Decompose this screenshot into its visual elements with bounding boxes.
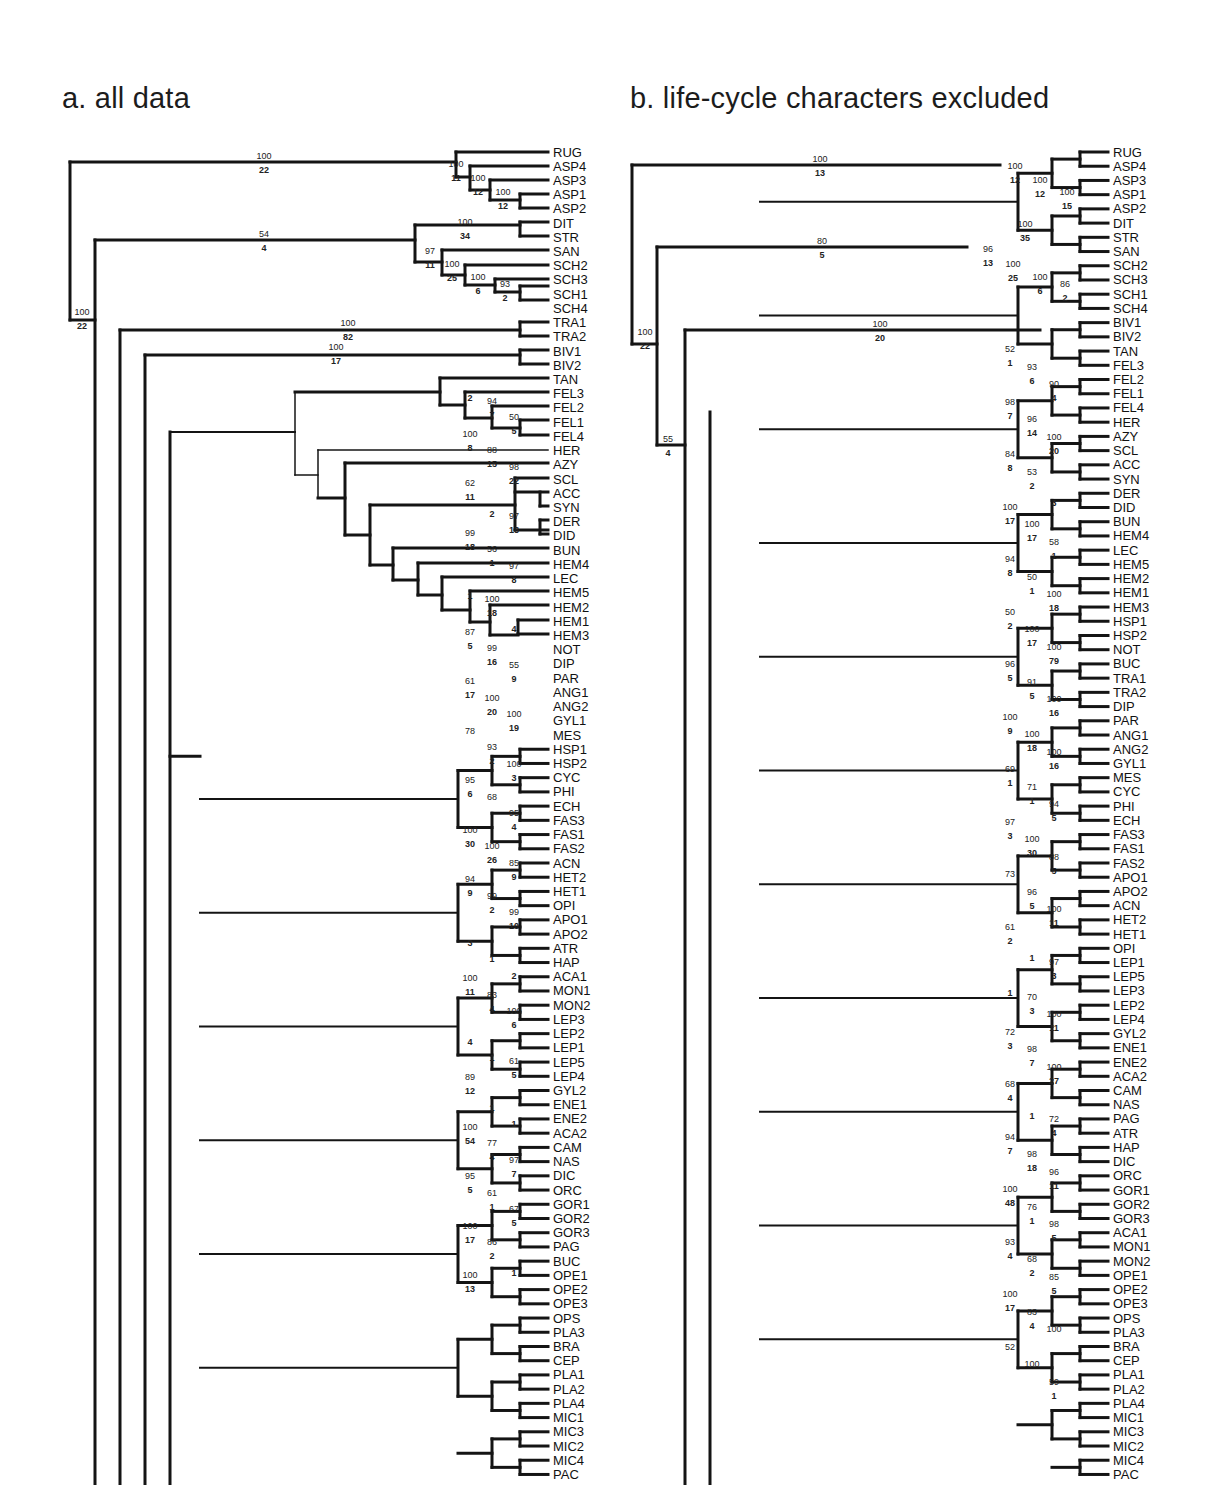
taxon-label: MON2 [1113,1254,1151,1269]
bootstrap-value: 96 [1027,414,1037,424]
decay-index: 1 [1029,586,1034,596]
taxon-label: SAN [1113,244,1140,259]
taxon-label: HSP2 [1113,628,1147,643]
decay-index: 25 [1008,273,1018,283]
bootstrap-value: 97 [1005,817,1015,827]
taxon-label: OPE3 [1113,1296,1148,1311]
decay-index: 5 [1029,901,1034,911]
bootstrap-value: 72 [1005,1027,1015,1037]
decay-index: 3 [1007,1041,1012,1051]
bootstrap-value: 93 [1027,362,1037,372]
taxon-label: APO2 [1113,884,1148,899]
bootstrap-value: 100 [812,154,827,164]
taxon-label: TAN [1113,344,1138,359]
bootstrap-value: 100 [1024,1359,1039,1369]
decay-index: 5 [1029,691,1034,701]
bootstrap-value: 100 [1046,904,1061,914]
bootstrap-value: 83 [1027,1307,1037,1317]
taxon-label: ANG2 [1113,742,1148,757]
taxon-label: ENE2 [1113,1055,1147,1070]
decay-index: 79 [1049,656,1059,666]
bootstrap-value: 91 [1027,677,1037,687]
taxon-label: LEP3 [1113,983,1145,998]
decay-index: 4 [1007,1093,1012,1103]
bootstrap-value: 76 [1027,1202,1037,1212]
decay-index: 1 [1029,796,1034,806]
taxon-label: HEM5 [1113,557,1149,572]
taxon-label: GYL1 [1113,756,1146,771]
taxon-label: ECH [1113,813,1140,828]
decay-index: 1 [1007,778,1012,788]
bootstrap-value: 52 [1005,1342,1015,1352]
decay-index: 35 [1020,233,1030,243]
bootstrap-value: 96 [1005,659,1015,669]
bootstrap-value: 100 [1024,729,1039,739]
decay-index: 18 [1027,1163,1037,1173]
bootstrap-value: 98 [1049,1219,1059,1229]
bootstrap-value: 100 [1007,161,1022,171]
decay-index: 11 [1049,1181,1059,1191]
taxon-label: SCH4 [1113,301,1148,316]
bootstrap-value: 100 [637,327,652,337]
taxon-label: ASP1 [1113,187,1146,202]
bootstrap-value: 68 [1027,1254,1037,1264]
bootstrap-value: 50 [1005,607,1015,617]
taxon-label: STR [1113,230,1139,245]
decay-index: 17 [1027,533,1037,543]
taxon-label: OPS [1113,1311,1141,1326]
decay-index: 8 [1007,568,1012,578]
decay-index: 17 [1005,516,1015,526]
taxon-label: MON1 [1113,1239,1151,1254]
bootstrap-value: 90 [1049,379,1059,389]
decay-index: 4 [665,448,670,458]
taxon-label: TRA2 [1113,685,1146,700]
decay-index: 30 [1027,848,1037,858]
taxon-label: DIC [1113,1154,1135,1169]
bootstrap-value: 96 [1049,1167,1059,1177]
taxon-label: ACC [1113,457,1140,472]
bootstrap-value: 70 [1027,992,1037,1002]
taxon-label: HEM2 [1113,571,1149,586]
taxon-label: APO1 [1113,870,1148,885]
decay-index: 2 [1062,293,1067,303]
taxon-label: PAR [1113,713,1139,728]
taxon-label: GOR3 [1113,1211,1150,1226]
taxon-label: BUC [1113,656,1140,671]
phylogenetic-tree-b: RUGASP4ASP3ASP1ASP2DITSTRSANSCH2SCH3SCH1… [0,0,1205,1485]
decay-index: 17 [1005,1303,1015,1313]
bootstrap-value: 100 [1002,1289,1017,1299]
decay-index: 27 [1049,1076,1059,1086]
taxon-label: DER [1113,486,1140,501]
taxon-label: CYC [1113,784,1140,799]
taxon-label: HEM3 [1113,600,1149,615]
decay-index: 5 [1051,866,1056,876]
taxon-label: HSP1 [1113,614,1147,629]
bootstrap-value: 59 [1049,1377,1059,1387]
taxon-label: BIV1 [1113,315,1141,330]
taxon-label: OPE2 [1113,1282,1148,1297]
decay-index: 1 [1007,358,1012,368]
bootstrap-value: 100 [1046,432,1061,442]
taxon-label: HET1 [1113,927,1146,942]
taxon-label: FEL2 [1113,372,1144,387]
bootstrap-value: 73 [1005,869,1015,879]
taxon-label: PLA3 [1113,1325,1145,1340]
bootstrap-value: 100 [1024,834,1039,844]
decay-index: 6 [1029,376,1034,386]
bootstrap-value: 72 [1049,1114,1059,1124]
bootstrap-value: 94 [1005,1132,1015,1142]
bootstrap-value: 100 [1046,642,1061,652]
taxon-label: HEM4 [1113,528,1149,543]
bootstrap-value: 69 [1005,764,1015,774]
decay-index: 1 [1007,988,1012,998]
decay-index: 20 [1049,446,1059,456]
bootstrap-value: 85 [1049,1272,1059,1282]
decay-index: 5 [1051,1286,1056,1296]
bootstrap-value: 61 [1005,922,1015,932]
taxon-label: LEP4 [1113,1012,1145,1027]
bootstrap-value: 68 [1005,1079,1015,1089]
bootstrap-value: 96 [1027,887,1037,897]
taxon-label: GYL2 [1113,1026,1146,1041]
bootstrap-value: 71 [1027,782,1037,792]
decay-index: 14 [1027,428,1037,438]
